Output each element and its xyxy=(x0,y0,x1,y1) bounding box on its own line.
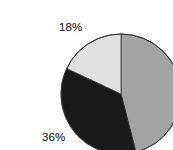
pie-slice-group xyxy=(61,34,173,150)
pie-slice-label-18: 18% xyxy=(59,22,82,34)
pie-chart-graphic xyxy=(40,16,173,150)
chart-canvas: 46% 36% 18% xyxy=(0,0,173,150)
pie-slice-label-36: 36% xyxy=(42,132,65,144)
pie-chart-figure: 46% 36% 18% xyxy=(40,16,133,134)
